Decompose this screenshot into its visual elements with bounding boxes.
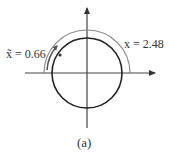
label-x: x = 2.48 bbox=[124, 37, 164, 51]
point-on-circle bbox=[58, 53, 61, 56]
caption: (a) bbox=[77, 135, 91, 150]
unit-circle-diagram: x̃ = 0.66 x = 2.48 (a) bbox=[0, 0, 169, 155]
label-tilde-x: x̃ = 0.66 bbox=[6, 47, 46, 61]
